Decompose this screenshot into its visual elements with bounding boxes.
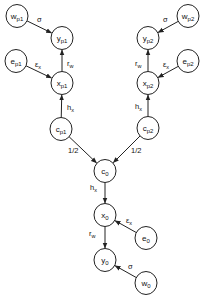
edge-label: σ — [128, 262, 133, 271]
arrow-icon — [115, 266, 136, 278]
node-y_p1: yp1 — [51, 27, 73, 50]
arrow-icon — [158, 21, 178, 32]
node-x_0: x0 — [94, 204, 116, 227]
edge-label: hx — [135, 102, 142, 112]
node-y_p2: yp2 — [137, 27, 159, 50]
edge-label: εx — [35, 60, 41, 70]
node-e_p1: ep1 — [5, 50, 27, 73]
edge-label: rw — [135, 59, 142, 69]
edge-label: 1/2 — [68, 146, 78, 155]
node-w_p2: wp2 — [177, 5, 199, 28]
edge-label: εx — [163, 60, 169, 70]
edge-label: εx — [126, 216, 132, 226]
edge-label: rw — [67, 59, 74, 69]
nodes-layer: wp1yp1ep1xp1cp1wp2yp2ep2xp2cp2c0x0e0y0w0 — [5, 5, 199, 295]
node-x_p1: xp1 — [51, 72, 73, 95]
edge-label: hx — [90, 183, 97, 193]
path-diagram: wp1yp1ep1xp1cp1wp2yp2ep2xp2cp2c0x0e0y0w0… — [0, 0, 204, 303]
node-e_p2: ep2 — [177, 50, 199, 73]
node-x_p2: xp2 — [137, 72, 159, 95]
edge-w_p2-to-y_p2 — [158, 21, 178, 32]
edge-label: σ — [37, 15, 42, 24]
node-w_0: w0 — [135, 272, 157, 295]
node-w_p1: wp1 — [6, 5, 28, 28]
node-e_0: e0 — [135, 227, 157, 250]
node-c_p2: cp2 — [137, 117, 159, 140]
node-c_0: c0 — [94, 160, 116, 183]
edge-label: rw — [89, 229, 96, 239]
edge-label: 1/2 — [131, 146, 141, 155]
edge-w_0-to-y_0 — [115, 266, 136, 278]
node-y_0: y0 — [94, 249, 116, 272]
node-c_p1: cp1 — [50, 118, 72, 141]
edge-label: σ — [163, 15, 168, 24]
edge-label: hx — [67, 103, 74, 113]
